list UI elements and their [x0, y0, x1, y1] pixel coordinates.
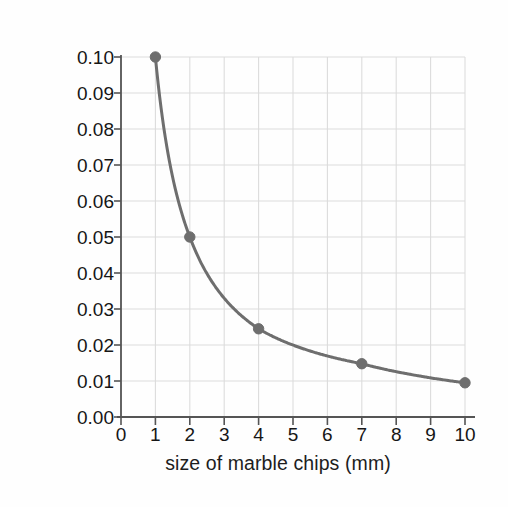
gridlines — [121, 57, 465, 417]
data-line — [155, 57, 465, 383]
axis-tick-marks — [114, 57, 465, 425]
plot-area — [0, 0, 508, 507]
chart-figure: rate of carbon dioxide production (g/s) … — [0, 0, 508, 507]
axis-lines — [117, 55, 475, 417]
data-markers — [150, 52, 470, 388]
